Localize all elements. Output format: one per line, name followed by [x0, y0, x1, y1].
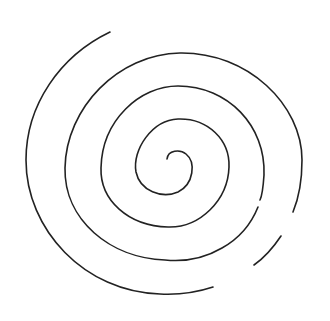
spiral-drawing	[0, 0, 330, 321]
inner-spiral-path	[65, 53, 302, 261]
outer-right-fragment-path	[254, 236, 281, 265]
spiral-figure	[0, 0, 330, 321]
